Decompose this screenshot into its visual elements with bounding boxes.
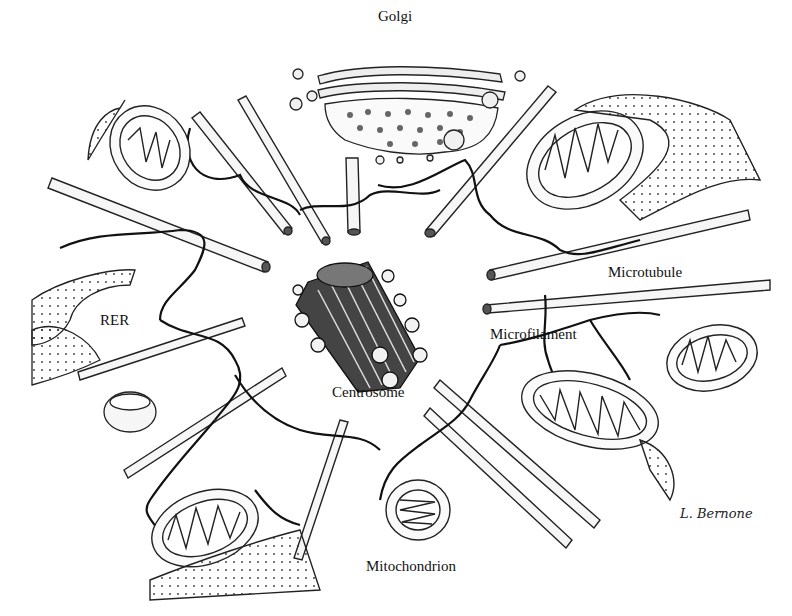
centrosome <box>293 262 427 392</box>
artist-signature: L. Bernone <box>680 506 753 521</box>
microtubule <box>346 158 360 235</box>
label-centrosome: Centrosome <box>332 384 405 401</box>
golgi-apparatus <box>290 67 525 164</box>
vesicle <box>104 392 156 432</box>
mitochondrion-bottomleft <box>141 475 320 600</box>
label-mitochondrion: Mitochondrion <box>366 558 456 575</box>
mitochondrion-right <box>659 315 764 401</box>
microtubule <box>483 280 770 314</box>
cell-illustration <box>0 0 792 616</box>
mitochondrion-bottom <box>386 480 450 540</box>
mitochondria <box>88 90 765 600</box>
label-microtubule: Microtubule <box>608 264 682 281</box>
label-rer: RER <box>100 312 129 329</box>
label-microfilament: Microfilament <box>490 326 577 343</box>
label-golgi: Golgi <box>378 8 412 25</box>
mitochondrion-topleft <box>88 90 206 206</box>
mitochondrion-topright <box>509 91 760 229</box>
microtubule <box>192 112 292 235</box>
microtubule <box>48 178 270 272</box>
